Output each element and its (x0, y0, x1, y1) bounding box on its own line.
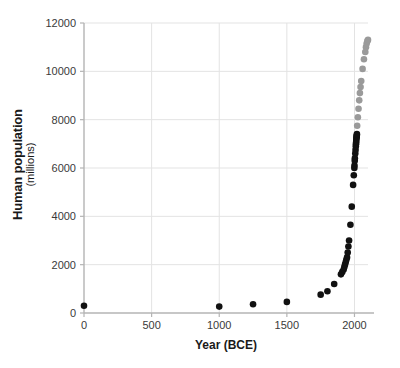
x-tick-label: 2000 (342, 319, 366, 331)
data-point (317, 291, 324, 298)
data-point (81, 302, 88, 309)
data-point (355, 105, 362, 112)
y-tick-label: 8000 (52, 114, 76, 126)
y-tick-label: 12000 (45, 17, 76, 29)
data-point (358, 78, 365, 85)
series-projection (354, 37, 371, 129)
data-point (346, 237, 353, 244)
data-point (357, 84, 364, 91)
data-point (284, 299, 291, 306)
y-tick-label: 10000 (45, 65, 76, 77)
data-point (324, 288, 331, 295)
data-point (356, 97, 363, 104)
data-point (361, 56, 368, 63)
series-historical (81, 131, 361, 310)
x-tick-label: 1000 (207, 319, 231, 331)
y-tick-label: 4000 (52, 210, 76, 222)
data-point (331, 281, 338, 288)
data-point (359, 66, 366, 73)
x-tick-label: 500 (142, 319, 160, 331)
axis-lines (80, 23, 374, 317)
y-tick-label: 2000 (52, 259, 76, 271)
data-point (250, 301, 257, 308)
data-point (365, 37, 372, 44)
y-tick-label: 6000 (52, 162, 76, 174)
x-tick-label: 1500 (275, 319, 299, 331)
data-point (344, 249, 351, 256)
x-axis-title: Year (BCE) (84, 338, 368, 352)
data-point (351, 172, 358, 179)
data-point (354, 131, 361, 138)
data-point (350, 182, 357, 189)
data-point (347, 221, 354, 228)
gridlines (84, 23, 368, 313)
x-tick-labels: 0500100015002000 (81, 319, 367, 331)
y-tick-label: 0 (70, 307, 76, 319)
population-chart: Human population (millions) 020004000600… (0, 0, 400, 368)
y-tick-labels: 020004000600080001000012000 (45, 17, 76, 319)
data-point (357, 90, 364, 97)
x-tick-label: 0 (81, 319, 87, 331)
data-points (81, 37, 372, 310)
data-point (216, 303, 223, 310)
data-point (354, 122, 361, 129)
data-point (345, 243, 352, 250)
data-point (355, 114, 362, 121)
plot-area: 020004000600080001000012000 050010001500… (0, 0, 400, 368)
data-point (348, 203, 355, 210)
